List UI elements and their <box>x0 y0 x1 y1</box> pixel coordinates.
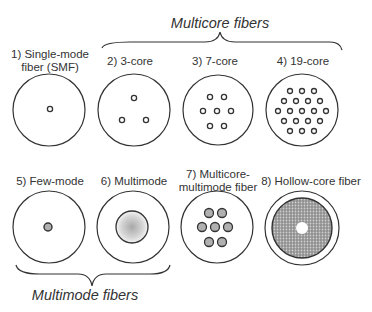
multicore-brace <box>102 32 342 50</box>
fiber-1-single-mode <box>13 74 85 146</box>
fiber-8-hollow-core <box>265 191 339 265</box>
fiber-2-three-core <box>98 74 170 146</box>
fiber-7-multicore-multimode <box>181 191 253 263</box>
fiber-diagram <box>0 0 372 312</box>
multimode-brace <box>16 265 170 286</box>
fiber-4-nineteen-core <box>266 74 338 146</box>
fiber-5-few-mode <box>13 191 85 263</box>
fiber-3-seven-core <box>183 75 253 145</box>
fiber-6-multimode <box>97 191 169 263</box>
